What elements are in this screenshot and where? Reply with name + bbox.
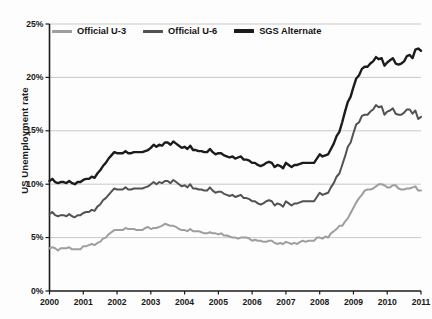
legend-swatch-sgs xyxy=(234,29,254,33)
legend-label-u3: Official U-3 xyxy=(77,26,126,36)
chart-legend: Official U-3 Official U-6 SGS Alternate xyxy=(52,26,321,36)
y-tick-label: 5% xyxy=(10,232,44,242)
legend-item-u6[interactable]: Official U-6 xyxy=(143,26,217,36)
y-tick-label: 15% xyxy=(10,125,44,135)
y-tick-label: 20% xyxy=(10,72,44,82)
series-line-sgs-alternate xyxy=(50,49,422,185)
y-tick-label: 25% xyxy=(10,19,44,29)
legend-label-u6: Official U-6 xyxy=(168,26,217,36)
legend-label-sgs: SGS Alternate xyxy=(259,26,321,36)
legend-swatch-u6 xyxy=(143,30,163,33)
legend-swatch-u3 xyxy=(52,30,72,33)
y-tick-label: 0% xyxy=(10,286,44,296)
x-tick-label: 2011 xyxy=(400,297,432,307)
plot-area xyxy=(0,0,432,319)
unemployment-rate-chart: US Unemployment rate Official U-3 Offici… xyxy=(0,0,432,319)
legend-item-sgs[interactable]: SGS Alternate xyxy=(234,26,321,36)
legend-item-u3[interactable]: Official U-3 xyxy=(52,26,126,36)
y-tick-label: 10% xyxy=(10,179,44,189)
series-line-official-u-6 xyxy=(50,105,422,217)
series-line-official-u-3 xyxy=(50,184,422,250)
